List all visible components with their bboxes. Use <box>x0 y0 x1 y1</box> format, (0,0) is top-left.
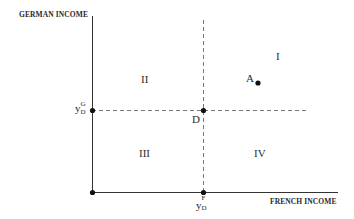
point-a <box>255 80 260 85</box>
origin-point <box>90 190 95 195</box>
y-tick-sup: G <box>81 101 86 108</box>
region-label-i: I <box>276 50 280 62</box>
region-label-iii: III <box>139 147 150 159</box>
x-axis-label: FRENCH INCOME <box>270 197 337 206</box>
x-tick-sup: F <box>202 195 206 202</box>
point-d <box>201 108 206 113</box>
point-a-label: A <box>246 72 254 84</box>
y-tick-label: yGD <box>75 103 88 115</box>
region-label-iv: IV <box>254 147 266 159</box>
x-tick-label: yFD <box>196 200 209 212</box>
region-label-ii: II <box>141 73 148 85</box>
diagram-canvas <box>0 0 354 219</box>
y-axis-label: GERMAN INCOME <box>19 10 88 19</box>
x-tick-sub: D <box>202 205 207 212</box>
point-d-label: D <box>192 113 200 125</box>
y-tick-point <box>90 108 95 113</box>
y-tick-sub: D <box>81 109 86 116</box>
